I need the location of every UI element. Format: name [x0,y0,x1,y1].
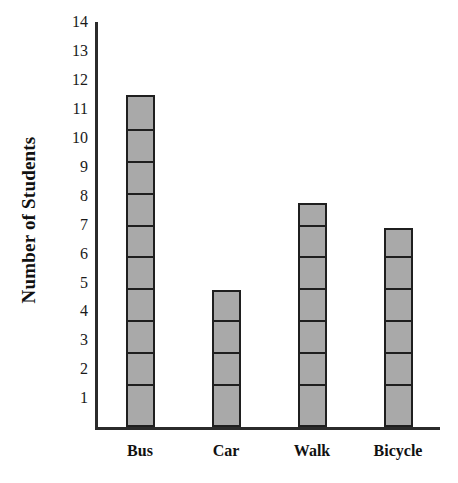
bar-segment-divider [212,320,241,322]
x-tick-label-walk: Walk [294,442,330,460]
bar-segment-divider [384,352,413,354]
bar-segment-divider [384,320,413,322]
bar-segment-divider [126,352,155,354]
bar-segment-divider [384,256,413,258]
bars-layer: BusCarWalkBicycle [0,0,458,483]
bar-segment-divider [126,161,155,163]
bar-segment-divider [298,320,327,322]
bar-segment-divider [384,384,413,386]
bar-bus[interactable] [126,95,155,427]
bar-segment-divider [126,193,155,195]
bar-segment-divider [126,384,155,386]
bar-segment-divider [298,225,327,227]
bar-segment-divider [126,288,155,290]
bar-segment-divider [298,288,327,290]
bar-segment-divider [298,352,327,354]
x-tick-label-bus: Bus [127,442,153,460]
bar-segment-divider [212,384,241,386]
bar-segment-divider [212,352,241,354]
plot-area: 1234567891011121314 BusCarWalkBicycle [0,0,458,483]
bar-segment-divider [126,225,155,227]
bar-segment-divider [298,256,327,258]
bar-segment-divider [298,384,327,386]
bar-segment-divider [126,320,155,322]
bar-segment-divider [384,288,413,290]
bar-chart: Number of Students 1234567891011121314 B… [0,0,458,483]
bar-segment-divider [126,256,155,258]
bar-segment-divider [126,129,155,131]
bar-car[interactable] [212,290,241,427]
x-tick-label-bicycle: Bicycle [374,442,423,460]
bar-walk[interactable] [298,203,327,427]
x-tick-label-car: Car [213,442,240,460]
